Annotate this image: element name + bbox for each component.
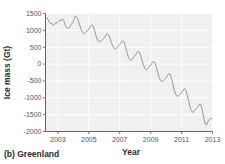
panel-caption: (b) Greenland: [4, 149, 59, 159]
figure-panel: 150010005000-500-1000-1500-2000 20032005…: [0, 0, 225, 164]
y-tick-label: 1000: [26, 27, 42, 34]
x-axis-title: Year: [122, 147, 141, 157]
ice-mass-line-chart: 150010005000-500-1000-1500-2000 20032005…: [0, 0, 225, 164]
x-tick-label: 2013: [205, 136, 221, 143]
y-tick-label: 1500: [26, 10, 42, 17]
y-axis-title: Ice mass (Gt): [2, 46, 12, 100]
y-tick-label: 0: [38, 60, 42, 67]
x-tick-label: 2007: [112, 136, 128, 143]
y-tick-label: -500: [27, 77, 41, 84]
x-tick-label: 2005: [81, 136, 97, 143]
plot-background: [46, 14, 213, 132]
y-tick-label: -1000: [24, 94, 42, 101]
y-tick-label: -2000: [24, 128, 42, 135]
y-tick-label: -1500: [24, 111, 42, 118]
x-tick-label: 2003: [50, 136, 66, 143]
y-tick-label: 500: [30, 44, 42, 51]
x-tick-label: 2009: [143, 136, 159, 143]
x-tick-label: 2011: [174, 136, 189, 143]
